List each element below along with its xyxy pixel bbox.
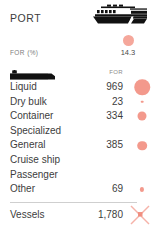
table-row[interactable]: Container 334 xyxy=(9,109,149,124)
bubble-marker xyxy=(137,141,147,151)
row-label: Dry bulk xyxy=(10,96,47,107)
kpi-bubble-indicator xyxy=(123,35,134,46)
row-bubble-cell xyxy=(127,138,157,153)
table-footer-total: Vessels 1,780 xyxy=(9,202,149,208)
row-bubble-cell xyxy=(127,80,157,95)
row-bubble-cell xyxy=(127,153,157,168)
table-row[interactable]: Liquid 969 xyxy=(9,80,149,95)
row-value: 334 xyxy=(69,110,123,121)
table-row[interactable]: Dry bulk 23 xyxy=(9,95,149,110)
cargo-truck-icon xyxy=(10,67,56,78)
bubble-marker xyxy=(138,112,147,121)
row-value: 69 xyxy=(69,183,123,194)
table-row[interactable]: Cruise ship xyxy=(9,153,149,168)
row-bubble-cell xyxy=(127,124,157,139)
bubble-marker xyxy=(141,101,144,104)
row-bubble-cell xyxy=(127,109,157,124)
table-column-headers: FOR xyxy=(9,66,149,80)
row-label: Cruise ship xyxy=(10,154,60,165)
port-summary-panel: PORT xyxy=(0,0,158,229)
table-row[interactable]: Other 69 xyxy=(9,182,149,197)
cargo-type-table: FOR Liquid 969 Dry bulk 23 Container 334… xyxy=(9,66,149,197)
cargo-ship-icon xyxy=(87,4,149,28)
row-label: Other xyxy=(10,183,35,194)
row-label: Liquid xyxy=(10,81,37,92)
total-value: 1,780 xyxy=(69,209,123,220)
row-label: General xyxy=(10,139,46,150)
bubble-marker xyxy=(134,80,150,96)
column-header-for: FOR xyxy=(87,69,123,75)
page-title: PORT xyxy=(10,12,41,24)
row-value: 969 xyxy=(69,81,123,92)
kpi-value: 14.3 xyxy=(113,48,143,57)
row-label: Passenger xyxy=(10,169,58,180)
row-value: 385 xyxy=(69,139,123,150)
row-bubble-cell xyxy=(127,182,157,197)
row-bubble-cell xyxy=(127,168,157,183)
row-label: Container xyxy=(10,110,53,121)
row-bubble-cell xyxy=(127,95,157,110)
footer-divider xyxy=(10,202,137,203)
table-row[interactable]: General 385 xyxy=(9,138,149,153)
table-row[interactable]: Specialized xyxy=(9,124,149,139)
row-label: Specialized xyxy=(10,125,61,136)
bubble-marker xyxy=(140,187,144,191)
row-value: 23 xyxy=(69,96,123,107)
kpi-label: FOR (%) xyxy=(10,49,38,56)
kpi-block: FOR (%) 14.3 xyxy=(9,34,149,64)
x-marker-icon xyxy=(127,204,157,226)
table-row[interactable]: Passenger xyxy=(9,168,149,183)
panel-header: PORT xyxy=(9,0,149,34)
total-label: Vessels xyxy=(10,209,44,220)
